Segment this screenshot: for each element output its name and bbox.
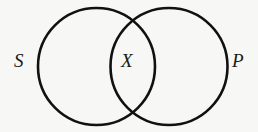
intersection-x-label: X: [120, 50, 134, 71]
venn-diagram: S X P: [0, 0, 258, 132]
set-s-label: S: [14, 50, 24, 71]
set-s-circle: [38, 8, 155, 125]
venn-svg: S X P: [0, 0, 258, 132]
set-p-label: P: [231, 50, 244, 71]
